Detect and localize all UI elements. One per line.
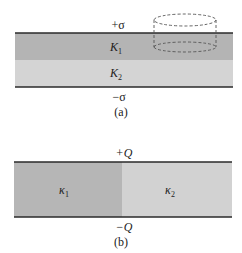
dielectric-kappa2-region: [122, 162, 232, 217]
figure-a: +σ K1 K2 −σ (a): [15, 14, 233, 119]
dielectric-k2-layer: [15, 60, 233, 87]
dielectric-k1-layer: [15, 33, 233, 60]
bottom-charge-label: −Q: [116, 220, 133, 234]
capacitor-diagram: +σ K1 K2 −σ (a) +Q κ1 κ2 −Q (b): [0, 0, 242, 253]
caption-a: (a): [114, 105, 127, 119]
top-charge-label: +Q: [116, 146, 133, 160]
bottom-charge-label: −σ: [112, 90, 126, 104]
figure-b: +Q κ1 κ2 −Q (b): [14, 146, 232, 249]
top-charge-label: +σ: [111, 18, 125, 32]
caption-b: (b): [114, 235, 128, 249]
